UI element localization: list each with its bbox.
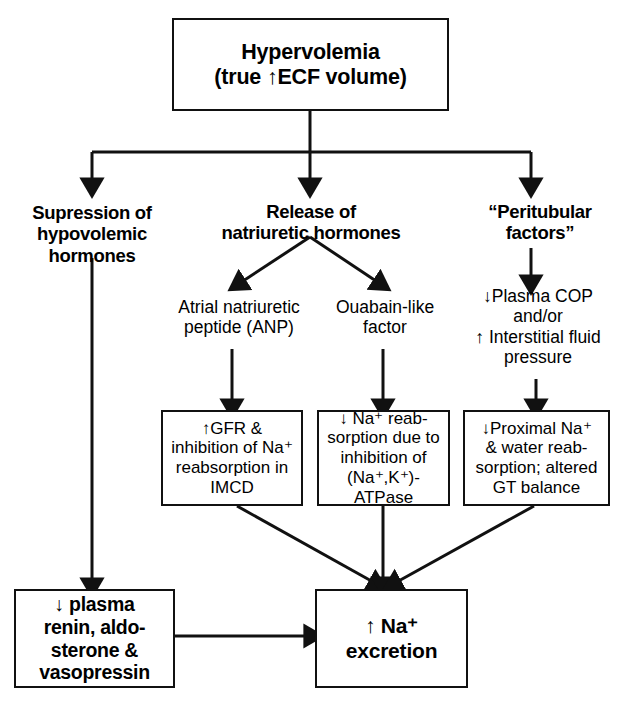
- node-atrial-natriuretic-peptide: Atrial natriuretic peptide (ANP): [157, 293, 321, 341]
- node-plasma-renin-label: ↓ plasma renin, aldo- sterone & vasopres…: [36, 593, 153, 683]
- node-ouabain-label: Ouabain-like factor: [333, 297, 437, 338]
- node-na-reabsorption-label: ↓ Na⁺ reab- sorption due to inhibition o…: [319, 409, 448, 508]
- node-suppression-label: Supression of hypovolemic hormones: [29, 202, 154, 266]
- node-na-excretion-label: ↑ Na⁺ excretion: [343, 614, 441, 663]
- node-peritubular-label: “Peritubular factors”: [485, 201, 594, 244]
- node-gfr-label: ↑GFR & inhibition of Na⁺ reabsorption in…: [168, 419, 295, 498]
- node-plasma-renin-aldosterone-vasopressin-box: ↓ plasma renin, aldo- sterone & vasopres…: [14, 589, 175, 688]
- node-anp-label: Atrial natriuretic peptide (ANP): [175, 297, 303, 338]
- node-ouabain-like-factor: Ouabain-like factor: [322, 293, 448, 341]
- node-gfr-inhibition-imcd-box: ↑GFR & inhibition of Na⁺ reabsorption in…: [161, 410, 303, 506]
- node-plasma-cop-label: ↓Plasma COP and/or ↑ Interstitial fluid …: [472, 286, 603, 367]
- node-release-label: Release of natriuretic hormones: [218, 201, 403, 244]
- node-na-excretion-box: ↑ Na⁺ excretion: [315, 589, 468, 688]
- node-release-of-natriuretic-hormones: Release of natriuretic hormones: [200, 196, 422, 248]
- node-na-reabsorption-atpase-box: ↓ Na⁺ reab- sorption due to inhibition o…: [317, 410, 450, 506]
- connector-proximal-box-to-na-excretion-box: [395, 506, 534, 583]
- node-hypervolemia: Hypervolemia (true ↑ECF volume): [172, 18, 449, 111]
- node-proximal-na-water-reabsorption-box: ↓Proximal Na⁺ & water reab- sorption; al…: [463, 410, 610, 506]
- connector-gfr-box-to-na-excretion-box: [237, 506, 375, 583]
- node-proximal-label: ↓Proximal Na⁺ & water reab- sorption; al…: [473, 419, 601, 498]
- node-peritubular-factors: “Peritubular factors”: [462, 196, 618, 248]
- node-suppression-of-hypovolemic-hormones: Supression of hypovolemic hormones: [6, 196, 178, 272]
- flowchart-canvas: Hypervolemia (true ↑ECF volume) Supressi…: [0, 0, 622, 707]
- node-hypervolemia-label: Hypervolemia (true ↑ECF volume): [211, 40, 409, 90]
- node-plasma-cop-interstitial-fluid-pressure: ↓Plasma COP and/or ↑ Interstitial fluid …: [458, 279, 618, 374]
- connector-hypervolemia-trunk: [92, 111, 531, 152]
